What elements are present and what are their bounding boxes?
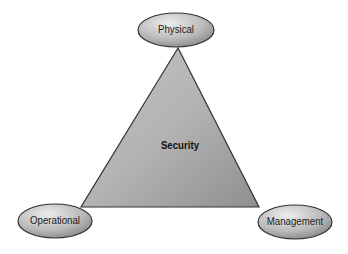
physical-label: Physical — [141, 23, 211, 35]
center-label: Security — [145, 139, 215, 151]
security-triangle-diagram: Security Physical Operational Management — [0, 0, 348, 254]
management-label: Management — [260, 215, 330, 227]
operational-label: Operational — [20, 214, 90, 226]
security-triangle — [81, 48, 259, 207]
